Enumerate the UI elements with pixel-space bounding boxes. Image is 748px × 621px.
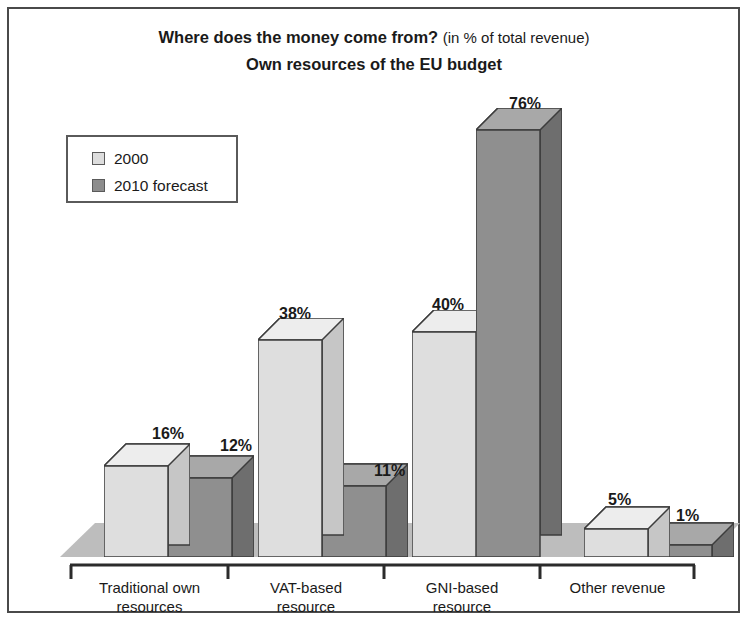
category-label-vat: VAT-based resource — [228, 578, 384, 616]
category-label-vat-line2: resource — [228, 597, 384, 616]
category-label-gni-line2: resource — [384, 597, 540, 616]
category-label-gni-line1: GNI-based — [384, 578, 540, 597]
category-label-traditional-line2: resources — [71, 597, 228, 616]
category-label-traditional: Traditional own resources — [71, 578, 228, 616]
category-label-vat-line1: VAT-based — [228, 578, 384, 597]
category-axis — [0, 0, 748, 621]
category-label-other: Other revenue — [540, 578, 695, 597]
chart-page: Where does the money come from? (in % of… — [0, 0, 748, 621]
category-label-gni: GNI-based resource — [384, 578, 540, 616]
category-label-other-line1: Other revenue — [540, 578, 695, 597]
category-label-traditional-line1: Traditional own — [71, 578, 228, 597]
